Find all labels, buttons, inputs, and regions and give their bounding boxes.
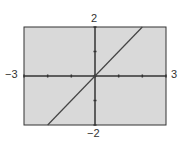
x-min-label: −3 (5, 69, 18, 80)
y-max-label: 2 (91, 13, 97, 24)
y-min-label: −2 (87, 128, 100, 139)
x-max-label: 3 (171, 69, 177, 80)
